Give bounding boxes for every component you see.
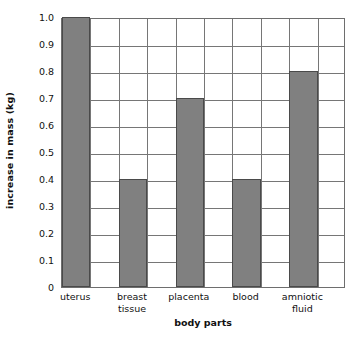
y-axis-tick-label: 0.9 <box>39 40 54 50</box>
x-axis-tick-label-line: tissue <box>102 303 162 315</box>
x-axis-tick-label-line: placenta <box>159 291 219 303</box>
bar-chart-figure: increase in mass (kg) 1.00.90.80.70.60.5… <box>0 0 354 340</box>
x-axis-tick-label: amnioticfluid <box>273 291 333 314</box>
y-axis-title-label: increase in mass (kg) <box>4 92 15 209</box>
x-axis-tick-label-line: fluid <box>273 303 333 315</box>
x-axis-tick-label-line: blood <box>216 291 276 303</box>
bar <box>289 71 317 287</box>
y-axis-title: increase in mass (kg) <box>0 0 18 300</box>
y-axis-tick-label: 0.8 <box>39 67 54 77</box>
y-axis-tick-label: 0.3 <box>39 202 54 212</box>
x-axis-tick-label-line: amniotic <box>273 291 333 303</box>
x-axis-tick-label: uterus <box>45 291 105 303</box>
x-axis-tick-label-line: breast <box>102 291 162 303</box>
y-axis-tick-label: 0.6 <box>39 121 54 131</box>
x-axis-title: body parts <box>61 317 345 328</box>
x-axis-tick-label-line: uterus <box>45 291 105 303</box>
y-axis-tick-label: 0.1 <box>39 256 54 266</box>
bar <box>119 179 147 287</box>
x-axis-tick-label: breasttissue <box>102 291 162 314</box>
y-axis-tick-labels: 1.00.90.80.70.60.50.40.30.20.10 <box>18 0 58 340</box>
bar <box>232 179 260 287</box>
bar <box>62 17 90 287</box>
x-axis-tick-label: blood <box>216 291 276 303</box>
x-axis-tick-label: placenta <box>159 291 219 303</box>
y-axis-tick-label: 1.0 <box>39 13 54 23</box>
bars-layer <box>62 19 344 287</box>
y-axis-tick-label: 0.7 <box>39 94 54 104</box>
bar <box>176 98 204 287</box>
y-axis-tick-label: 0.5 <box>39 148 54 158</box>
y-axis-tick-label: 0.2 <box>39 229 54 239</box>
plot-area <box>61 18 345 288</box>
y-axis-tick-label: 0.4 <box>39 175 54 185</box>
